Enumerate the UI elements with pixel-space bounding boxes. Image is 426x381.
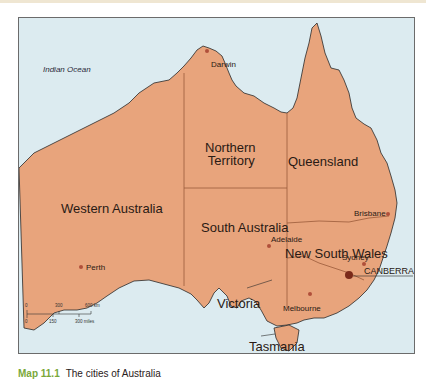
state-victoria: Victoria <box>217 297 260 310</box>
scale-mi-0: 0 <box>25 319 28 324</box>
nt-line2: Territory <box>208 153 255 168</box>
city-canberra-capital: CANBERRA <box>364 267 414 276</box>
caption-number: Map 11.1 <box>18 368 60 379</box>
caption-text: The cities of Australia <box>66 368 161 379</box>
page-top-strip <box>0 0 426 3</box>
state-northern-territory: Northern Territory <box>205 141 256 167</box>
map-caption: Map 11.1The cities of Australia <box>18 368 161 379</box>
map-frame: Indian Ocean Western Australia Northern … <box>18 17 415 354</box>
state-south-australia: South Australia <box>201 221 288 234</box>
scale-km-0: 0 <box>25 303 28 308</box>
state-new-south-wales: New South Wales <box>285 247 388 260</box>
city-sydney: Sydney <box>342 254 369 262</box>
city-brisbane: Brisbane <box>354 210 386 218</box>
city-darwin: Darwin <box>211 61 236 69</box>
scale-mi-150: 150 <box>49 319 57 324</box>
scale-km-300: 300 <box>55 303 63 308</box>
city-melbourne: Melbourne <box>283 305 321 313</box>
city-perth: Perth <box>86 264 105 272</box>
indian-ocean-label: Indian Ocean <box>43 66 91 74</box>
city-adelaide: Adelaide <box>271 236 302 244</box>
scale-mi-300: 300 miles <box>75 319 94 324</box>
state-western-australia: Western Australia <box>61 202 163 215</box>
scale-km-600: 600 km <box>85 303 100 308</box>
state-tasmania: Tasmania <box>249 340 305 353</box>
state-queensland: Queensland <box>288 155 358 168</box>
